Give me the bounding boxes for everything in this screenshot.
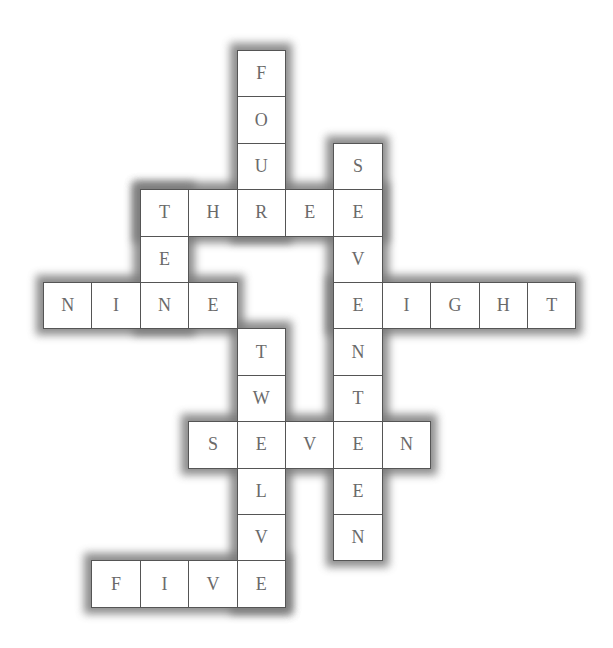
crossword-cell[interactable]: L	[237, 468, 286, 515]
crossword-cell[interactable]: I	[140, 560, 189, 607]
crossword-board: FOUSTHREEEVNINEEIGHTTNWTSEVENLEVNFIVE	[0, 0, 613, 648]
crossword-cell[interactable]: T	[237, 328, 286, 375]
crossword-cell[interactable]: I	[91, 282, 140, 329]
crossword-cell[interactable]: N	[333, 328, 382, 375]
crossword-cell[interactable]: E	[333, 189, 382, 236]
crossword-cell[interactable]: O	[237, 96, 286, 143]
crossword-cell[interactable]: N	[140, 282, 189, 329]
crossword-cell[interactable]: G	[430, 282, 479, 329]
crossword-cell[interactable]: V	[285, 421, 334, 468]
crossword-cell[interactable]: F	[237, 50, 286, 97]
crossword-cell[interactable]: F	[91, 560, 140, 607]
crossword-cell[interactable]: E	[333, 421, 382, 468]
crossword-cell[interactable]: E	[285, 189, 334, 236]
crossword-cell[interactable]: I	[382, 282, 431, 329]
crossword-cell[interactable]: N	[43, 282, 92, 329]
crossword-cell[interactable]: S	[188, 421, 237, 468]
crossword-cell[interactable]: E	[140, 236, 189, 283]
crossword-cell[interactable]: E	[333, 468, 382, 515]
crossword-cell[interactable]: V	[237, 514, 286, 561]
crossword-cell[interactable]: T	[333, 375, 382, 422]
crossword-cell[interactable]: U	[237, 143, 286, 190]
crossword-cell[interactable]: R	[237, 189, 286, 236]
crossword-cell[interactable]: T	[527, 282, 576, 329]
crossword-cell[interactable]: E	[237, 421, 286, 468]
crossword-cell[interactable]: N	[333, 514, 382, 561]
crossword-cell[interactable]: H	[479, 282, 528, 329]
crossword-cell[interactable]: E	[188, 282, 237, 329]
crossword-cell[interactable]: V	[188, 560, 237, 607]
crossword-cell[interactable]: N	[382, 421, 431, 468]
crossword-cell[interactable]: S	[333, 143, 382, 190]
crossword-cell[interactable]: V	[333, 236, 382, 283]
crossword-cell[interactable]: W	[237, 375, 286, 422]
crossword-cell[interactable]: E	[237, 560, 286, 607]
crossword-cell[interactable]: T	[140, 189, 189, 236]
crossword-cell[interactable]: H	[188, 189, 237, 236]
crossword-cell[interactable]: E	[333, 282, 382, 329]
